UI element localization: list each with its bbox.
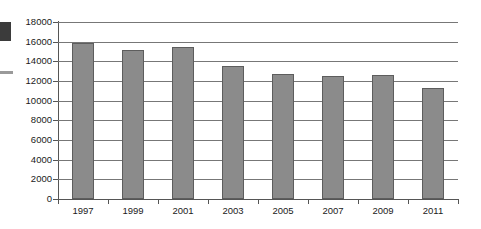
y-tick-label: 4000 — [4, 155, 52, 165]
y-tick-label: 12000 — [4, 76, 52, 86]
bar-2007 — [322, 76, 344, 199]
x-tick-mark-3 — [208, 199, 209, 204]
gridline-12000 — [58, 81, 458, 82]
y-tick-label-wrap-2000: 2000 — [0, 174, 52, 184]
bar-2011 — [422, 88, 444, 199]
gridline-6000 — [58, 140, 458, 141]
gridline-8000 — [58, 120, 458, 121]
x-tick-mark-0 — [58, 199, 59, 204]
y-tick-label-wrap-4000: 4000 — [0, 155, 52, 165]
x-tick-label-1999: 1999 — [108, 205, 158, 217]
x-tick-mark-1 — [108, 199, 109, 204]
y-tick-label-wrap-8000: 8000 — [0, 115, 52, 125]
gridline-2000 — [58, 179, 458, 180]
bar-2009 — [372, 75, 394, 199]
gridline-4000 — [58, 160, 458, 161]
y-tick-label-wrap-6000: 6000 — [0, 135, 52, 145]
y-tick-label: 2000 — [4, 174, 52, 184]
plot-area — [58, 22, 458, 199]
gridline-18000 — [58, 22, 458, 23]
y-tick-label-wrap-0: 0 — [0, 194, 52, 204]
gridline-14000 — [58, 61, 458, 62]
y-tick-label: 10000 — [4, 96, 52, 106]
bar-1997 — [72, 43, 94, 199]
x-tick-label-2003: 2003 — [208, 205, 258, 217]
x-tick-label-2007: 2007 — [308, 205, 358, 217]
bar-2001 — [172, 47, 194, 199]
y-tick-label-wrap-12000: 12000 — [0, 76, 52, 86]
x-tick-label-2011: 2011 — [408, 205, 458, 217]
bar-2005 — [272, 74, 294, 199]
y-tick-label: 18000 — [4, 17, 52, 27]
scan-artifact-dash — [0, 71, 13, 74]
y-tick-label: 6000 — [4, 135, 52, 145]
x-tick-mark-5 — [308, 199, 309, 204]
y-tick-label-wrap-16000: 16000 — [0, 37, 52, 47]
y-tick-label: 0 — [4, 194, 52, 204]
y-tick-label: 16000 — [4, 37, 52, 47]
y-tick-label: 14000 — [4, 56, 52, 66]
x-tick-label-2009: 2009 — [358, 205, 408, 217]
x-tick-mark-2 — [158, 199, 159, 204]
y-tick-label-wrap-18000: 18000 — [0, 17, 52, 27]
bar-2003 — [222, 66, 244, 199]
x-tick-mark-4 — [258, 199, 259, 204]
x-tick-label-2001: 2001 — [158, 205, 208, 217]
y-tick-label-wrap-10000: 10000 — [0, 96, 52, 106]
x-tick-label-1997: 1997 — [58, 205, 108, 217]
gridline-16000 — [58, 42, 458, 43]
bar-1999 — [122, 50, 144, 199]
y-tick-label: 8000 — [4, 115, 52, 125]
x-tick-mark-6 — [358, 199, 359, 204]
x-tick-label-2005: 2005 — [258, 205, 308, 217]
chart-page: 0200040006000800010000120001400016000180… — [0, 0, 481, 229]
x-tick-mark-8 — [458, 199, 459, 204]
x-tick-mark-7 — [408, 199, 409, 204]
y-tick-label-wrap-14000: 14000 — [0, 56, 52, 66]
gridline-10000 — [58, 101, 458, 102]
